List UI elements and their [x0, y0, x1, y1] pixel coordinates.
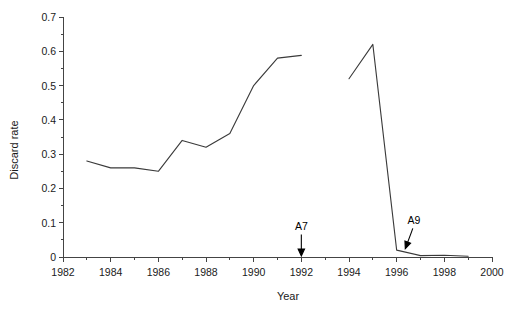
y-tick-label: 0	[50, 251, 56, 263]
y-tick-label: 0.1	[41, 217, 56, 229]
x-tick-label: 1982	[51, 266, 75, 278]
y-tick-label: 0.6	[41, 45, 56, 57]
x-tick-label: 1990	[242, 266, 266, 278]
y-axis-title: Discard rate	[8, 120, 20, 179]
x-axis-title: Year	[277, 290, 300, 302]
annotation-label-a7: A7	[295, 220, 308, 232]
x-tick-label: 1996	[385, 266, 409, 278]
x-tick-label: 1986	[147, 266, 171, 278]
discard-rate-line-chart: 00.10.20.30.40.50.60.7 19821984198619881…	[0, 0, 513, 311]
annotation-label-a9: A9	[407, 214, 420, 226]
y-tick-label: 0.4	[41, 114, 56, 126]
x-tick-label: 2000	[480, 266, 504, 278]
y-tick-label: 0.5	[41, 80, 56, 92]
y-tick-label: 0.3	[41, 148, 56, 160]
x-tick-label: 1988	[194, 266, 218, 278]
y-tick-label: 0.7	[41, 11, 56, 23]
chart-background	[0, 0, 513, 311]
x-tick-label: 1992	[290, 266, 314, 278]
x-tick-label: 1998	[433, 266, 457, 278]
x-tick-label: 1994	[337, 266, 361, 278]
x-tick-label: 1984	[99, 266, 123, 278]
chart-container: 00.10.20.30.40.50.60.7 19821984198619881…	[0, 0, 513, 311]
y-tick-label: 0.2	[41, 182, 56, 194]
